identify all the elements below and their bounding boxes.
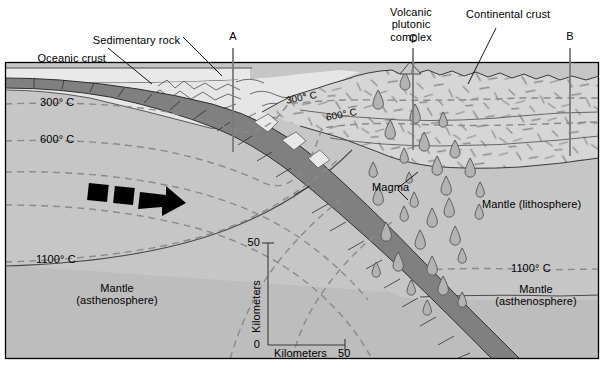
scale-y-max-label: 50 [232, 236, 260, 248]
sedimentary-rock-label: Sedimentary rock [50, 34, 180, 46]
marker-label-a: A [223, 30, 243, 42]
scale-y-min-label: 0 [232, 338, 260, 350]
scale-x-max-label: 50 [338, 347, 350, 359]
oceanic-crust-label: Oceanic crust [0, 52, 106, 64]
marker-label-b: B [560, 30, 580, 42]
mantle-lithosphere-label: Mantle (lithosphere) [482, 198, 581, 210]
marker-label-c: C [403, 32, 423, 44]
continental-crust-label: Continental crust [466, 8, 586, 20]
subduction-zone-figure: Oceanic crust Sedimentary rock Volcanic … [0, 0, 604, 373]
isotherm-label-600-left: 600° C [40, 133, 74, 145]
continental-plate-arrow [511, 22, 604, 50]
isotherm-label-300-left: 300° C [40, 96, 74, 108]
isotherm-label-1100-right: 1100° C [511, 262, 551, 274]
isotherm-label-1100-left: 1100° C [36, 253, 76, 265]
magma-label: Magma [372, 181, 409, 193]
mantle-asthenosphere-label-left: Mantle (asthenosphere) [52, 282, 182, 307]
scale-x-axis-label: Kilometers [274, 347, 327, 359]
mantle-asthenosphere-label-right: Mantle (asthenosphere) [471, 283, 601, 308]
scale-y-axis-label: Kilometers [250, 280, 262, 333]
cross-section-body [5, 22, 604, 359]
